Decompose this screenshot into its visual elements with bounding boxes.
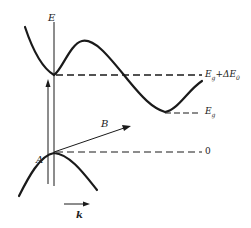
transition-a-arrowhead: [46, 79, 51, 87]
k-axis-label: k: [76, 210, 83, 220]
upper-valley-level-label: Eg+ΔE0: [205, 70, 240, 81]
upper-valley-label-rest: +ΔE: [215, 69, 236, 79]
transition-a-label: A: [36, 155, 43, 165]
k-direction-arrowhead: [83, 202, 90, 207]
upper-valley-label-main: E: [205, 69, 212, 79]
eg-label-sub: g: [212, 111, 216, 118]
zero-level-label: 0: [205, 147, 211, 156]
energy-axis-label: E: [48, 13, 55, 23]
conduction-band-curve: [25, 27, 202, 112]
eg-label-main: E: [205, 106, 212, 116]
band-diagram: E Eg+ΔE0 Eg 0 A B k: [0, 0, 251, 228]
transition-b-label: B: [101, 119, 108, 129]
transition-b-arrow: [54, 127, 127, 152]
eg-level-label: Eg: [205, 107, 215, 118]
valence-band-curve: [19, 153, 97, 196]
transition-b-arrowhead: [122, 125, 131, 131]
upper-valley-label-sub2: 0: [236, 74, 240, 81]
